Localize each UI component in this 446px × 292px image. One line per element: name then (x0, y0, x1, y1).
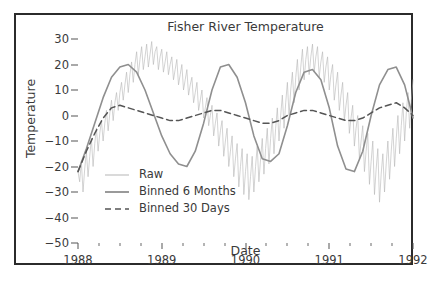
figure-frame: Fisher River Temperature Temperature Dat… (14, 13, 413, 265)
x-tick-mark-minor (266, 243, 267, 246)
x-tick-mark-major (78, 243, 79, 249)
x-tick-mark-minor (203, 243, 204, 246)
x-tick-mark-minor (119, 243, 120, 246)
x-tick-label: 1989 (147, 253, 176, 267)
legend-swatch-raw (104, 169, 130, 179)
x-tick-label: 1990 (231, 253, 260, 267)
x-tick-mark-major (161, 243, 162, 249)
y-tick-mark (71, 141, 78, 142)
x-tick-mark-minor (140, 243, 141, 246)
x-tick-mark-minor (224, 243, 225, 246)
x-tick-mark-minor (350, 243, 351, 246)
legend-swatch-binned-6-months (104, 186, 130, 196)
chart-legend: Raw Binned 6 Months Binned 30 Days (104, 165, 236, 216)
x-tick-mark-major (245, 243, 246, 249)
legend-label-binned-6-months: Binned 6 Months (139, 184, 236, 198)
x-tick-mark-minor (98, 243, 99, 246)
plot-area: Raw Binned 6 Months Binned 30 Days 30201… (78, 39, 413, 243)
y-tick-mark (71, 90, 78, 91)
y-tick-mark (71, 217, 78, 218)
x-tick-label: 1991 (315, 253, 344, 267)
x-tick-mark-minor (182, 243, 183, 246)
y-tick-mark (71, 192, 78, 193)
legend-label-raw: Raw (139, 167, 163, 181)
x-tick-mark-major (329, 243, 330, 249)
legend-item-binned-6-months: Binned 6 Months (104, 182, 236, 199)
legend-swatch-binned-30-days (104, 203, 130, 213)
y-tick-mark (71, 166, 78, 167)
x-tick-label: 1988 (63, 253, 92, 267)
x-tick-mark-minor (371, 243, 372, 246)
y-tick-mark (71, 115, 78, 116)
chart-title: Fisher River Temperature (78, 19, 413, 34)
x-tick-label: 1992 (398, 253, 427, 267)
y-axis-label: Temperature (23, 39, 38, 199)
x-tick-mark-minor (308, 243, 309, 246)
legend-item-raw: Raw (104, 165, 236, 182)
legend-item-binned-30-days: Binned 30 Days (104, 199, 236, 216)
y-tick-mark (71, 39, 78, 40)
x-tick-mark-minor (287, 243, 288, 246)
x-tick-mark-major (413, 243, 414, 249)
series-line-binned-30-days (78, 103, 413, 172)
x-tick-mark-minor (392, 243, 393, 246)
legend-label-binned-30-days: Binned 30 Days (139, 201, 230, 215)
y-tick-mark (71, 64, 78, 65)
